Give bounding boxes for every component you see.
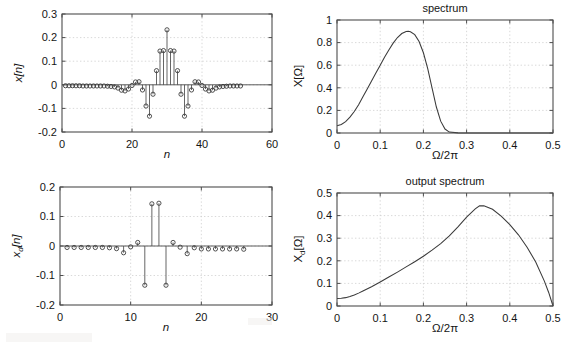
decimated-signal-plot bbox=[60, 201, 272, 287]
spectrum-xlabel: Ω/2π bbox=[432, 149, 458, 161]
output-spectrum-frame bbox=[337, 193, 553, 306]
decimated-signal-xlabel: n bbox=[163, 321, 169, 333]
spectrum-ylabel: X[Ω] bbox=[292, 65, 304, 88]
x-tick-label: 0.5 bbox=[545, 139, 560, 151]
y-tick-label: 0 bbox=[49, 240, 55, 252]
svg-text:Xd[Ω]: Xd[Ω] bbox=[292, 235, 307, 262]
output-spectrum-xlabel: Ω/2π bbox=[432, 322, 458, 334]
input-signal-ylabel: x[n] bbox=[12, 63, 24, 83]
panel-decimated-signal: 0102030-0.2-0.100.10.2 n xd[n] bbox=[0, 173, 282, 346]
x-tick-label: 40 bbox=[196, 138, 208, 150]
spectrum-plot bbox=[337, 31, 553, 133]
y-tick-label: 0.6 bbox=[317, 59, 332, 71]
scan-artifact-2 bbox=[248, 318, 272, 325]
spectrum-grid bbox=[337, 20, 553, 133]
data-curve bbox=[337, 206, 553, 306]
decimated-ylabel-tail: [n] bbox=[10, 234, 22, 249]
x-tick-label: 0 bbox=[59, 138, 65, 150]
x-tick-label: 0 bbox=[334, 312, 340, 324]
spectrum-ticks bbox=[337, 20, 553, 133]
y-tick-label: -0.1 bbox=[38, 102, 57, 114]
y-tick-label: 0.1 bbox=[42, 55, 57, 67]
y-tick-label: 0.5 bbox=[317, 187, 332, 199]
panel-input-signal: 0204060-0.2-0.100.10.20.3 n x[n] bbox=[0, 0, 282, 173]
output-spectrum-ticklabels: 00.10.20.30.40.500.10.20.30.40.5 bbox=[317, 187, 561, 324]
output-ylabel-tail: [Ω] bbox=[292, 235, 304, 250]
input-signal-xlabel: n bbox=[164, 148, 170, 160]
output-spectrum-ticks bbox=[337, 193, 553, 306]
decimated-signal-svg: 0102030-0.2-0.100.10.2 n xd[n] bbox=[0, 173, 282, 346]
x-tick-label: 0 bbox=[334, 139, 340, 151]
y-tick-label: 0 bbox=[51, 79, 57, 91]
decimated-signal-ylabel: xd[n] bbox=[10, 234, 25, 259]
output-spectrum-plot bbox=[337, 206, 553, 306]
x-tick-label: 0 bbox=[57, 311, 63, 323]
y-tick-label: 0.8 bbox=[317, 36, 332, 48]
y-tick-label: 0 bbox=[326, 300, 332, 312]
x-tick-label: 0.5 bbox=[545, 312, 560, 324]
spectrum-svg: spectrum 00.10.20.30.40.500.20.40.60.81 … bbox=[282, 0, 564, 173]
y-tick-label: -0.2 bbox=[38, 126, 57, 138]
output-spectrum-svg: output spectrum 00.10.20.30.40.500.10.20… bbox=[282, 173, 564, 346]
x-tick-label: 0.2 bbox=[416, 139, 431, 151]
scan-artifact bbox=[6, 333, 92, 342]
y-tick-label: 0.1 bbox=[317, 277, 332, 289]
output-spectrum-ylabel: Xd[Ω] bbox=[292, 235, 307, 262]
spectrum-ticklabels: 00.10.20.30.40.500.20.40.60.81 bbox=[317, 14, 561, 151]
x-tick-label: 0.4 bbox=[502, 139, 517, 151]
spectrum-frame bbox=[337, 20, 553, 133]
x-tick-label: 0.4 bbox=[502, 312, 517, 324]
y-tick-label: 0 bbox=[326, 127, 332, 139]
x-tick-label: 60 bbox=[266, 138, 278, 150]
panel-output-spectrum: output spectrum 00.10.20.30.40.500.10.20… bbox=[282, 173, 564, 346]
y-tick-label: -0.2 bbox=[36, 299, 55, 311]
y-tick-label: 0.1 bbox=[40, 210, 55, 222]
y-tick-label: -0.1 bbox=[36, 269, 55, 281]
x-tick-label: 20 bbox=[195, 311, 207, 323]
input-signal-svg: 0204060-0.2-0.100.10.20.3 n x[n] bbox=[0, 0, 282, 173]
y-tick-label: 0.3 bbox=[317, 232, 332, 244]
x-tick-label: 10 bbox=[125, 311, 137, 323]
y-tick-label: 1 bbox=[326, 14, 332, 26]
svg-text:xd[n]: xd[n] bbox=[10, 234, 25, 259]
x-tick-label: 0.3 bbox=[459, 312, 474, 324]
y-tick-label: 0.3 bbox=[42, 8, 57, 20]
spectrum-title: spectrum bbox=[422, 2, 467, 14]
input-signal-ticklabels: 0204060-0.2-0.100.10.20.3 bbox=[38, 8, 278, 150]
y-tick-label: 0.2 bbox=[42, 31, 57, 43]
matlab-figure-canvas: 0204060-0.2-0.100.10.20.3 n x[n] spectru… bbox=[0, 0, 564, 346]
x-tick-label: 0.3 bbox=[459, 139, 474, 151]
data-curve bbox=[337, 31, 553, 133]
y-tick-label: 0.2 bbox=[40, 181, 55, 193]
x-tick-label: 0.2 bbox=[416, 312, 431, 324]
output-spectrum-grid bbox=[337, 193, 553, 306]
x-tick-label: 0.1 bbox=[373, 312, 388, 324]
y-tick-label: 0.4 bbox=[317, 82, 332, 94]
y-tick-label: 0.2 bbox=[317, 104, 332, 116]
panel-spectrum: spectrum 00.10.20.30.40.500.20.40.60.81 … bbox=[282, 0, 564, 173]
x-tick-label: 0.1 bbox=[373, 139, 388, 151]
output-spectrum-title: output spectrum bbox=[406, 175, 485, 187]
y-tick-label: 0.2 bbox=[317, 255, 332, 267]
input-signal-plot bbox=[62, 28, 272, 119]
x-tick-label: 20 bbox=[126, 138, 138, 150]
y-tick-label: 0.4 bbox=[317, 209, 332, 221]
